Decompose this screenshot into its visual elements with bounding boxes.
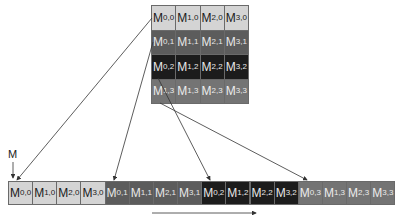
linear-cell: M2,1 [153,181,178,205]
matrix-cell: M1,3 [175,79,200,105]
arrow-row3 [160,103,307,180]
matrix-cell: M1,3 [151,79,176,105]
matrix-cell: M2,1 [200,30,225,56]
linear-cell: M1,3 [322,181,347,205]
matrix-cell: M1,1 [175,30,200,56]
linear-cell: M3,3 [370,181,395,205]
linear-cell: M2,0 [56,181,81,205]
matrix-cell: M2,2 [200,54,225,80]
matrix-cell: M2,0 [200,5,225,31]
linear-cell: M0,3 [298,181,323,205]
linear-cell: M3,1 [177,181,202,205]
linear-cell: M0,1 [105,181,130,205]
linear-cell: M0,0 [8,181,33,205]
matrix-cell: M3,0 [224,5,249,31]
linear-cell: M3,2 [274,181,299,205]
linear-cell: M0,2 [201,181,226,205]
linear-cell: M2,3 [346,181,371,205]
linear-cell: M1,2 [225,181,250,205]
matrix-cell: M1,2 [175,54,200,80]
matrix-cell: M2,3 [200,79,225,105]
arrow-row1 [114,42,153,180]
matrix-cell: M3,3 [224,79,249,105]
matrix-cell: M0,2 [151,54,176,80]
matrix-label: M [8,148,17,160]
matrix-cell: M3,2 [224,54,249,80]
matrix-cell: M0,0 [151,5,176,31]
matrix-cell: M1,0 [175,5,200,31]
arrow-row0 [17,18,152,180]
linear-cell: M1,1 [129,181,154,205]
linear-cell: M2,2 [250,181,275,205]
matrix-cell: M0,1 [151,30,176,56]
linear-cell: M1,0 [32,181,57,205]
matrix-cell: M3,1 [224,30,249,56]
linear-cell: M3,0 [80,181,105,205]
